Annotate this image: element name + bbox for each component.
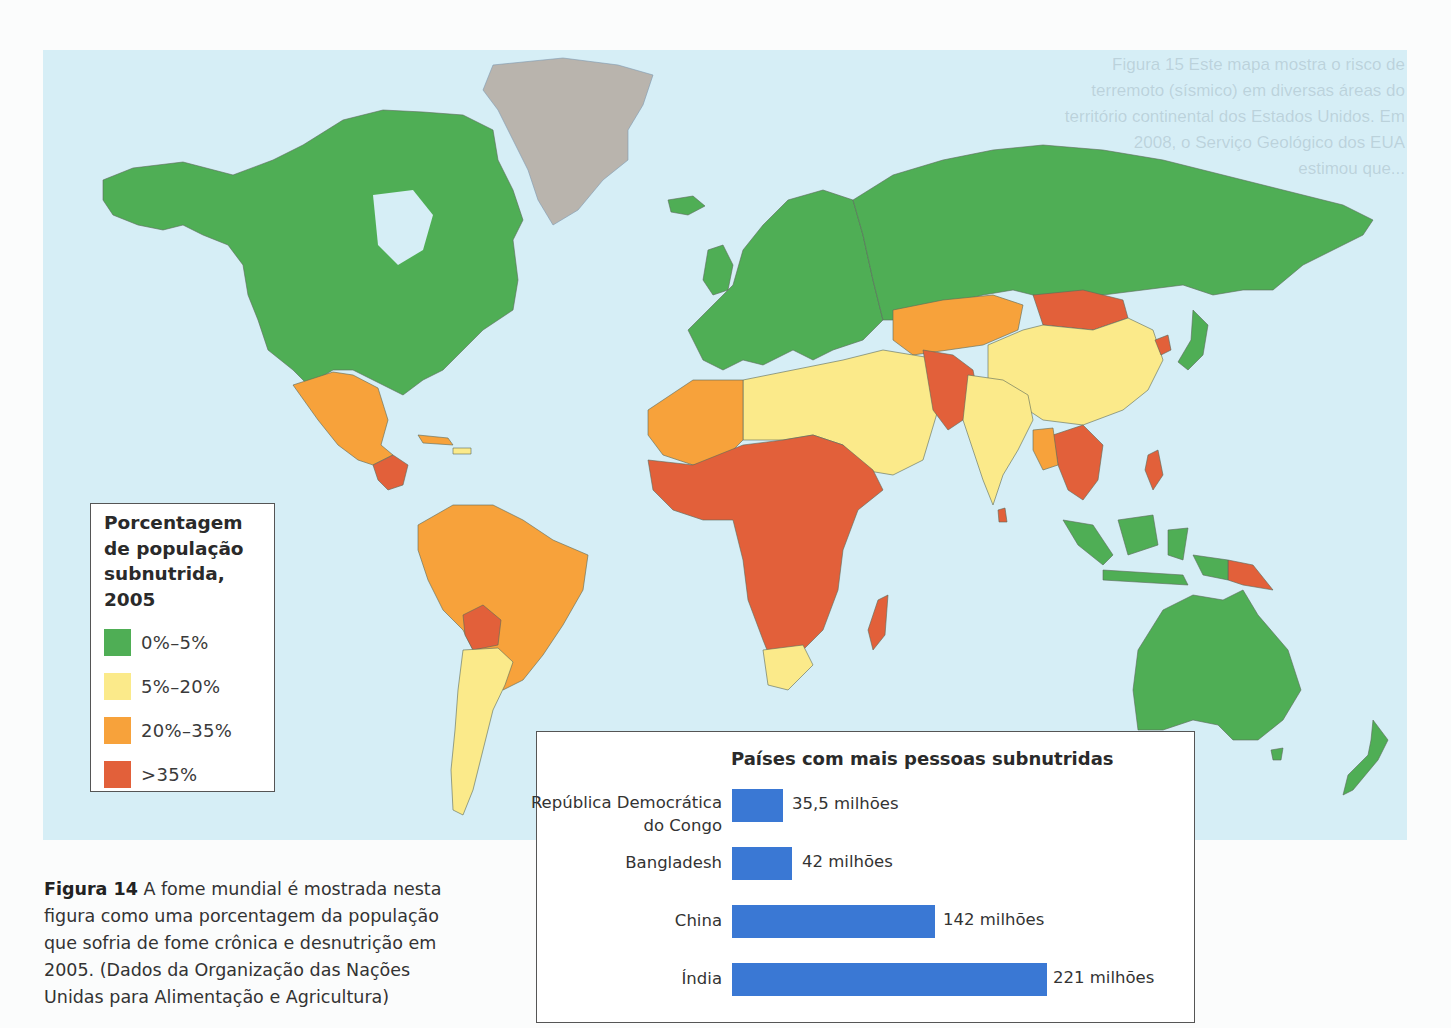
legend-title-line: 2005 [104,587,262,613]
legend-title-line: Porcentagem [104,510,262,536]
bar-label: China [675,909,722,932]
region-new-zealand [1343,720,1388,795]
bar-china [732,905,935,938]
legend-swatch-green [104,629,131,656]
figure-caption: Figura 14 A fome mundial é mostrada nest… [44,876,464,1011]
undernourished-bar-chart: Países com mais pessoas subnutridas Repú… [536,731,1195,1023]
region-indonesia [1063,515,1188,585]
bar-label-line: do Congo [531,814,722,837]
legend-label: >35% [141,764,197,785]
bar-label: República Democrática do Congo [531,791,722,837]
chart-title: Países com mais pessoas subnutridas [731,748,1114,769]
legend-swatch-orange [104,717,131,744]
region-north-america [103,110,523,395]
bar-label: Índia [682,967,723,990]
region-india [963,375,1033,505]
legend-title: Porcentagem de população subnutrida, 200… [104,510,262,612]
legend-title-line: de população [104,536,262,562]
legend-swatch-yellow [104,673,131,700]
bar-value: 42 milhões [802,852,893,871]
bar-row-bangladesh: Bangladesh 42 milhões [537,847,1194,881]
bar-bangladesh [732,847,792,880]
caption-label: Figura 14 [44,879,138,899]
bar-value: 221 milhões [1053,968,1154,987]
map-legend: Porcentagem de população subnutrida, 200… [90,503,275,792]
region-southeast-asia [1053,425,1103,500]
region-madagascar [868,595,888,650]
bar-row-india: Índia 221 milhões [537,963,1194,997]
legend-swatch-red [104,761,131,788]
legend-label: 5%–20% [141,676,220,697]
bar-value: 35,5 milhões [792,794,899,813]
region-south-africa [763,645,813,690]
region-papua-new-guinea [1228,560,1273,590]
region-mexico [293,372,393,465]
bar-row-china: China 142 milhões [537,905,1194,939]
region-southern-cone [451,648,513,815]
legend-item-20-35: 20%–35% [104,708,262,752]
bar-label-line: República Democrática [531,791,722,814]
legend-item-0-5: 0%–5% [104,620,262,664]
region-sub-saharan-africa [648,435,883,665]
region-russia [853,145,1373,320]
bar-value: 142 milhões [943,910,1044,929]
bar-drc [732,789,783,822]
legend-title-line: subnutrida, [104,561,262,587]
region-australia [1133,590,1301,740]
legend-item-over-35: >35% [104,752,262,796]
legend-label: 0%–5% [141,632,209,653]
bar-row-drc: República Democrática do Congo 35,5 milh… [537,789,1194,823]
legend-item-5-20: 5%–20% [104,664,262,708]
bar-india [732,963,1047,996]
legend-label: 20%–35% [141,720,232,741]
bar-label: Bangladesh [625,851,722,874]
